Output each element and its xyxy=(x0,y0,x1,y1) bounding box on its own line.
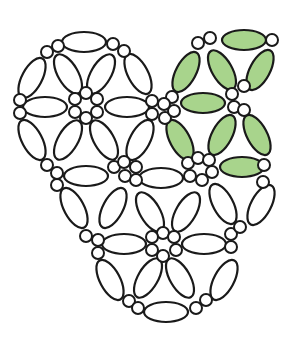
round-bead xyxy=(107,38,119,50)
round-bead xyxy=(203,154,215,166)
round-bead xyxy=(92,234,104,246)
petal-bead xyxy=(105,97,149,117)
petal-bead xyxy=(64,166,108,186)
round-bead xyxy=(266,34,278,46)
petal-bead xyxy=(144,302,188,322)
round-bead xyxy=(196,174,208,186)
highlighted-petal-bead xyxy=(181,93,225,113)
round-bead xyxy=(51,167,63,179)
round-bead xyxy=(234,221,246,233)
highlighted-petal-bead xyxy=(167,48,205,96)
round-bead xyxy=(238,104,250,116)
petal-bead xyxy=(62,32,106,52)
round-bead xyxy=(80,87,92,99)
round-bead xyxy=(69,106,81,118)
highlighted-petal-bead xyxy=(222,30,266,50)
round-bead xyxy=(200,294,212,306)
round-bead xyxy=(80,112,92,124)
round-bead xyxy=(91,93,103,105)
highlighted-petal-bead xyxy=(238,111,276,159)
round-bead xyxy=(146,95,158,107)
round-bead xyxy=(192,37,204,49)
round-bead xyxy=(204,32,216,44)
round-bead xyxy=(130,161,142,173)
round-bead xyxy=(132,302,144,314)
round-bead xyxy=(146,108,158,120)
round-bead xyxy=(92,247,104,259)
round-bead xyxy=(51,179,63,191)
round-bead xyxy=(225,241,237,253)
round-bead xyxy=(146,244,158,256)
round-bead xyxy=(118,156,130,168)
petal-bead xyxy=(94,184,132,232)
round-bead xyxy=(238,80,250,92)
beading-pattern-diagram xyxy=(0,0,305,342)
round-bead xyxy=(184,170,196,182)
petal-bead xyxy=(182,234,226,254)
petal-bead xyxy=(102,234,146,254)
round-bead xyxy=(158,98,170,110)
round-bead xyxy=(14,107,26,119)
petal-bead xyxy=(23,97,67,117)
petal-bead xyxy=(13,116,51,164)
highlighted-petal-bead xyxy=(203,111,241,159)
round-bead xyxy=(170,244,182,256)
petal-bead xyxy=(166,188,205,236)
round-bead xyxy=(69,93,81,105)
round-bead xyxy=(257,176,269,188)
round-bead xyxy=(258,159,270,171)
round-bead xyxy=(146,231,158,243)
round-bead xyxy=(157,250,169,262)
round-bead xyxy=(14,94,26,106)
round-bead xyxy=(52,40,64,52)
highlighted-petal-bead xyxy=(202,46,241,94)
round-bead xyxy=(41,46,53,58)
petal-bead xyxy=(55,184,93,232)
round-bead xyxy=(168,231,180,243)
petal-bead xyxy=(139,168,183,188)
round-bead xyxy=(80,230,92,242)
round-bead xyxy=(91,106,103,118)
round-bead xyxy=(118,45,130,57)
petal-bead xyxy=(204,180,242,228)
round-bead xyxy=(192,152,204,164)
round-bead xyxy=(226,88,238,100)
round-bead xyxy=(130,174,142,186)
